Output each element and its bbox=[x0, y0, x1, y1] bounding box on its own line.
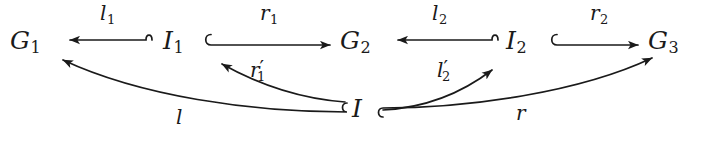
node-G2: G2 bbox=[340, 28, 371, 56]
node-G1: G1 bbox=[10, 28, 41, 56]
arrow-l bbox=[63, 60, 347, 112]
arrow-label-r1-prime: r′1 bbox=[250, 58, 265, 83]
arrow-label-l2: l2 bbox=[432, 3, 447, 26]
node-I: I bbox=[352, 96, 362, 124]
arrow-r2 bbox=[552, 35, 638, 46]
node-I1: I1 bbox=[163, 28, 184, 56]
arrow-label-l: l bbox=[176, 107, 183, 130]
node-G3: G3 bbox=[648, 28, 679, 56]
arrow-label-r1: r1 bbox=[260, 3, 278, 26]
arrow-label-l1: l1 bbox=[100, 3, 115, 26]
arrow-r1-prime bbox=[222, 64, 345, 102]
arrow-l2 bbox=[398, 35, 498, 40]
node-I2: I2 bbox=[506, 28, 527, 56]
arrow-label-r: r bbox=[516, 103, 526, 126]
arrow-l1 bbox=[70, 35, 152, 40]
arrow-label-l2-prime: l′2 bbox=[437, 58, 450, 83]
arrow-label-r2: r2 bbox=[590, 3, 608, 26]
commutative-diagram: G1 I1 G2 I2 G3 I l1 r1 l2 r2 r′1 l′2 l r bbox=[0, 0, 707, 143]
arrow-r1 bbox=[206, 35, 330, 46]
